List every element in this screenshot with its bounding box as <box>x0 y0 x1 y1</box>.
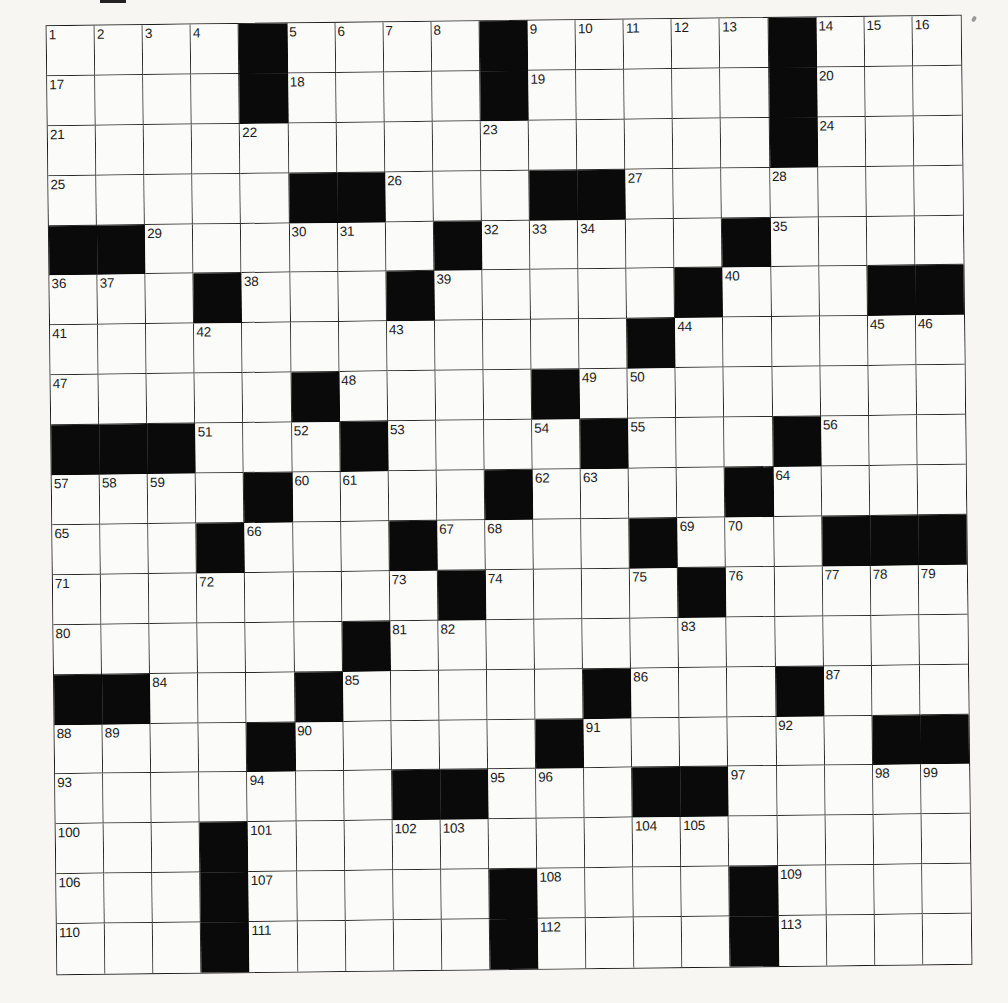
grid-cell[interactable] <box>534 619 583 669</box>
grid-cell[interactable] <box>774 566 823 616</box>
grid-cell[interactable] <box>727 667 776 717</box>
grid-cell[interactable] <box>869 465 918 515</box>
grid-cell[interactable]: 3 <box>143 25 192 75</box>
grid-cell[interactable] <box>436 420 485 470</box>
grid-cell[interactable]: 73 <box>390 571 439 621</box>
grid-cell[interactable] <box>198 623 247 673</box>
grid-cell[interactable]: 71 <box>53 574 102 624</box>
grid-cell[interactable] <box>193 224 242 274</box>
grid-cell[interactable] <box>242 323 291 373</box>
grid-cell[interactable] <box>585 818 634 868</box>
grid-cell[interactable] <box>875 914 924 964</box>
grid-cell[interactable] <box>104 823 153 873</box>
grid-cell[interactable] <box>193 174 242 224</box>
grid-cell[interactable] <box>821 466 870 516</box>
grid-cell[interactable] <box>722 168 771 218</box>
grid-cell[interactable] <box>625 119 674 169</box>
grid-cell[interactable]: 67 <box>437 520 486 570</box>
grid-cell[interactable] <box>869 416 918 466</box>
grid-cell[interactable] <box>680 717 729 767</box>
grid-cell[interactable]: 108 <box>537 868 586 918</box>
grid-cell[interactable] <box>344 821 393 871</box>
grid-cell[interactable] <box>826 915 875 965</box>
grid-cell[interactable] <box>386 221 435 271</box>
grid-cell[interactable] <box>771 267 820 317</box>
grid-cell[interactable] <box>677 468 726 518</box>
grid-cell[interactable] <box>393 870 442 920</box>
grid-cell[interactable] <box>433 171 482 221</box>
grid-cell[interactable]: 20 <box>817 67 866 117</box>
grid-cell[interactable]: 22 <box>240 123 289 173</box>
grid-cell[interactable] <box>246 622 295 672</box>
grid-cell[interactable] <box>384 122 433 172</box>
grid-cell[interactable] <box>674 168 723 218</box>
grid-cell[interactable] <box>629 468 678 518</box>
grid-cell[interactable]: 31 <box>338 222 387 272</box>
grid-cell[interactable]: 32 <box>482 220 531 270</box>
grid-cell[interactable] <box>585 868 634 918</box>
grid-cell[interactable]: 76 <box>726 567 775 617</box>
grid-cell[interactable] <box>147 374 196 424</box>
grid-cell[interactable] <box>296 821 345 871</box>
grid-cell[interactable] <box>824 715 873 765</box>
grid-cell[interactable] <box>432 71 481 121</box>
grid-cell[interactable] <box>529 120 578 170</box>
grid-cell[interactable] <box>631 618 680 668</box>
grid-cell[interactable] <box>820 366 869 416</box>
grid-cell[interactable]: 92 <box>776 716 825 766</box>
grid-cell[interactable]: 111 <box>249 922 298 972</box>
grid-cell[interactable] <box>918 465 967 515</box>
grid-cell[interactable]: 57 <box>52 475 101 525</box>
grid-cell[interactable] <box>728 716 777 766</box>
grid-cell[interactable]: 60 <box>292 472 341 522</box>
grid-cell[interactable] <box>871 615 920 665</box>
grid-cell[interactable]: 94 <box>248 772 297 822</box>
grid-cell[interactable] <box>151 773 200 823</box>
grid-cell[interactable]: 41 <box>50 325 99 375</box>
grid-cell[interactable] <box>487 719 536 769</box>
grid-cell[interactable] <box>774 516 823 566</box>
grid-cell[interactable]: 78 <box>871 565 920 615</box>
grid-cell[interactable] <box>192 74 241 124</box>
grid-cell[interactable] <box>343 721 392 771</box>
grid-cell[interactable] <box>152 823 201 873</box>
grid-cell[interactable] <box>100 524 149 574</box>
grid-cell[interactable] <box>868 366 917 416</box>
grid-cell[interactable] <box>777 816 826 866</box>
grid-cell[interactable]: 106 <box>56 874 105 924</box>
grid-cell[interactable]: 34 <box>578 219 627 269</box>
grid-cell[interactable]: 54 <box>532 419 581 469</box>
grid-cell[interactable] <box>725 417 774 467</box>
grid-cell[interactable] <box>387 371 436 421</box>
grid-cell[interactable] <box>99 374 148 424</box>
grid-cell[interactable] <box>345 920 394 970</box>
grid-cell[interactable] <box>721 118 770 168</box>
grid-cell[interactable] <box>296 771 345 821</box>
grid-cell[interactable] <box>199 723 248 773</box>
grid-cell[interactable]: 103 <box>441 820 490 870</box>
grid-cell[interactable] <box>195 373 244 423</box>
grid-cell[interactable]: 50 <box>628 368 677 418</box>
grid-cell[interactable] <box>579 319 628 369</box>
grid-cell[interactable] <box>486 619 535 669</box>
grid-cell[interactable] <box>297 921 346 971</box>
grid-cell[interactable] <box>826 865 875 915</box>
grid-cell[interactable] <box>439 670 488 720</box>
grid-cell[interactable]: 79 <box>919 565 968 615</box>
grid-cell[interactable]: 26 <box>385 172 434 222</box>
grid-cell[interactable] <box>149 573 198 623</box>
grid-cell[interactable]: 40 <box>723 267 772 317</box>
grid-cell[interactable]: 112 <box>538 918 587 968</box>
grid-cell[interactable] <box>673 118 722 168</box>
grid-cell[interactable] <box>433 121 482 171</box>
grid-cell[interactable] <box>724 367 773 417</box>
grid-cell[interactable] <box>825 765 874 815</box>
grid-cell[interactable] <box>241 173 290 223</box>
grid-cell[interactable] <box>531 320 580 370</box>
grid-cell[interactable] <box>721 68 770 118</box>
grid-cell[interactable]: 74 <box>486 570 535 620</box>
grid-cell[interactable] <box>820 316 869 366</box>
grid-cell[interactable] <box>384 72 433 122</box>
grid-cell[interactable] <box>866 166 915 216</box>
grid-cell[interactable]: 37 <box>98 275 147 325</box>
